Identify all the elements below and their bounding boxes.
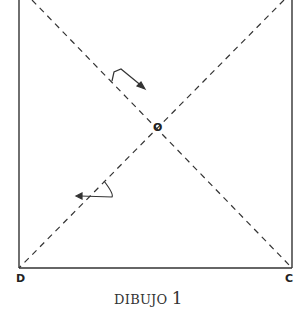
point-label-o: O — [153, 121, 162, 134]
caption-number: 1 — [172, 288, 183, 308]
fold-arrow-upper-icon — [112, 69, 145, 89]
point-label-c: C — [285, 272, 293, 285]
caption-text: DIBUJO — [114, 292, 167, 307]
folding-diagram — [0, 0, 297, 317]
fold-line-diagonal-c — [19, 0, 284, 268]
figure-caption: DIBUJO 1 — [0, 288, 297, 308]
point-label-d: D — [16, 272, 25, 285]
fold-arrow-lower-icon — [76, 181, 112, 199]
fold-line-diagonal-d — [32, 0, 292, 268]
